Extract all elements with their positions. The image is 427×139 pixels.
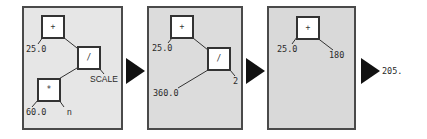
edge-div-left <box>178 70 208 88</box>
operator-label: + <box>180 23 185 31</box>
operator-label: + <box>306 24 311 32</box>
final-result: 205. <box>382 67 402 76</box>
operator-node-plus: + <box>170 15 194 39</box>
leaf-value: 360.0 <box>153 89 179 98</box>
leaf-value: 2 <box>233 77 238 86</box>
leaf-value: 180 <box>329 51 344 60</box>
operator-label: / <box>87 54 92 62</box>
leaf-variable: SCALE <box>90 75 118 84</box>
leaf-value: 25.0 <box>152 44 172 53</box>
leaf-value: 25.0 <box>26 45 46 54</box>
arrow-right-icon <box>126 58 145 84</box>
operator-label: / <box>217 55 222 63</box>
arrow-right-icon <box>361 58 380 84</box>
operator-node-multiply: * <box>37 78 61 102</box>
operator-node-plus: + <box>296 16 320 40</box>
edge-plus-div <box>193 38 208 50</box>
operator-label: * <box>47 86 52 94</box>
leaf-value: 25.0 <box>277 45 297 54</box>
operator-node-plus: + <box>41 15 65 39</box>
leaf-value: 60.0 <box>26 108 46 117</box>
edge-plus-div <box>63 37 77 48</box>
operator-node-divide: / <box>207 47 231 71</box>
operator-label: + <box>51 23 56 31</box>
operator-node-divide: / <box>77 46 101 70</box>
arrow-right-icon <box>246 58 265 84</box>
leaf-variable: n <box>67 108 72 117</box>
